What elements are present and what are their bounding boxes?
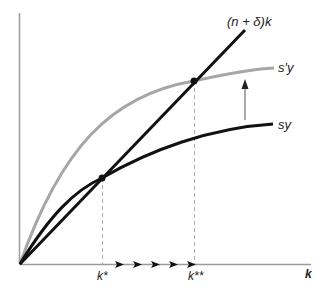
new-steady-state-point bbox=[191, 78, 198, 85]
new-saving-curve-label: s′y bbox=[278, 61, 293, 74]
old-saving-curve-label: sy bbox=[278, 118, 291, 131]
k-axis-label: k bbox=[305, 268, 312, 280]
old-saving-curve bbox=[20, 124, 273, 264]
k-star-label: k* bbox=[97, 270, 108, 282]
solow-diagram bbox=[0, 0, 328, 298]
k-star-star-label: k** bbox=[188, 270, 203, 282]
new-saving-curve bbox=[20, 68, 274, 264]
depreciation-line bbox=[20, 30, 245, 264]
depreciation-line-label: (n + δ)k bbox=[227, 15, 271, 28]
shift-arrow-head bbox=[242, 79, 249, 89]
old-steady-state-point bbox=[99, 175, 106, 182]
